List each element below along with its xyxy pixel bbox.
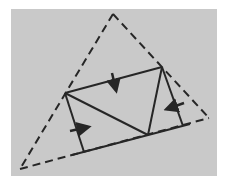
triangle-fold-diagram [0,0,225,184]
